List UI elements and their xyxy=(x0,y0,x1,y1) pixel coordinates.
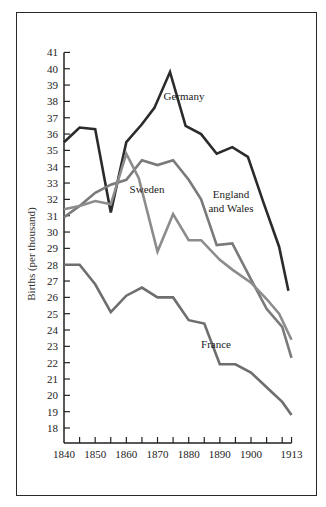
y-tick-label: 24 xyxy=(47,324,59,336)
x-tick-label: 1870 xyxy=(147,448,170,460)
x-tick-label: 1913 xyxy=(281,448,304,460)
y-tick-label: 41 xyxy=(47,46,58,58)
series-line-germany xyxy=(64,72,288,291)
y-tick-label: 22 xyxy=(47,357,58,369)
y-tick-label: 27 xyxy=(47,275,59,287)
y-tick-label: 35 xyxy=(47,144,59,156)
y-tick-label: 36 xyxy=(47,128,59,140)
y-tick-label: 21 xyxy=(47,373,58,385)
y-tick-label: 34 xyxy=(47,161,59,173)
y-tick-label: 23 xyxy=(47,340,59,352)
y-tick-label: 31 xyxy=(47,210,58,222)
x-tick-label: 1860 xyxy=(115,448,138,460)
y-tick-label: 20 xyxy=(47,389,59,401)
y-tick-label: 37 xyxy=(47,112,59,124)
y-tick-label: 39 xyxy=(47,79,59,91)
series-label-france: France xyxy=(201,338,231,350)
y-tick-label: 18 xyxy=(47,422,59,434)
series-label-germany: Germany xyxy=(164,90,205,102)
y-tick-label: 32 xyxy=(47,193,58,205)
y-tick-label: 26 xyxy=(47,291,59,303)
line-chart: 1819202122232425262728293031323334353637… xyxy=(0,0,326,507)
y-tick-label: 19 xyxy=(47,406,59,418)
y-tick-label: 38 xyxy=(47,95,59,107)
x-tick-label: 1900 xyxy=(240,448,263,460)
x-tick-label: 1880 xyxy=(178,448,201,460)
series-label-england-and-wales: Englandand Wales xyxy=(208,188,253,214)
y-tick-label: 40 xyxy=(47,63,59,75)
x-tick-label: 1850 xyxy=(84,448,107,460)
series-label-sweden: Sweden xyxy=(130,183,165,195)
y-tick-label: 33 xyxy=(47,177,59,189)
series-line-england-and-wales xyxy=(64,160,292,358)
y-axis-title: Births (per thousand) xyxy=(25,207,38,301)
y-tick-label: 25 xyxy=(47,308,59,320)
y-tick-label: 28 xyxy=(47,259,59,271)
series-lines xyxy=(64,72,292,415)
axes: 1819202122232425262728293031323334353637… xyxy=(47,46,303,460)
y-tick-label: 30 xyxy=(47,226,59,238)
series-line-france xyxy=(64,265,292,415)
x-tick-label: 1840 xyxy=(53,448,76,460)
y-tick-label: 29 xyxy=(47,242,59,254)
x-tick-label: 1890 xyxy=(209,448,232,460)
